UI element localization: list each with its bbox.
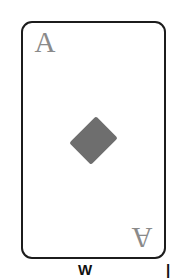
card-index-bottom-right: A (127, 220, 157, 252)
diamond-shape (69, 116, 118, 165)
caption-fragment-right: | (166, 262, 170, 278)
caption-fragment-center: W (78, 262, 92, 278)
playing-card-ace-of-diamonds[interactable]: A A (21, 21, 166, 259)
diamond-pip-icon-center (74, 116, 114, 164)
card-rank-bottom-right: A (127, 221, 157, 252)
scene-canvas: A A W | (0, 0, 183, 280)
caption-strip: W | (0, 262, 183, 280)
